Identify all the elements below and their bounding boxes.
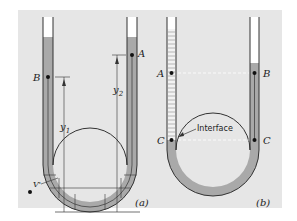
label-point-b-b: B: [262, 68, 270, 79]
point-c-right-marker: [253, 138, 257, 142]
label-point-a-b: A: [156, 68, 164, 79]
point-a-marker-b: [170, 71, 174, 75]
label-point-a-a: A: [137, 48, 145, 59]
point-b-marker: [46, 75, 50, 79]
label-point-b-a: B: [32, 72, 40, 83]
manometer-diagram: B A y1 y2 V' (a): [0, 0, 297, 221]
label-point-c-right: C: [263, 135, 271, 146]
volume-marker: [28, 190, 32, 194]
label-volume: V': [33, 180, 41, 189]
caption-b: (b): [256, 197, 270, 208]
point-b-marker-b: [253, 71, 257, 75]
point-c-left-marker: [170, 138, 174, 142]
caption-a: (a): [135, 197, 149, 208]
point-a-marker: [130, 53, 134, 57]
label-interface: Interface: [197, 124, 233, 133]
label-point-c-left: C: [157, 135, 165, 146]
